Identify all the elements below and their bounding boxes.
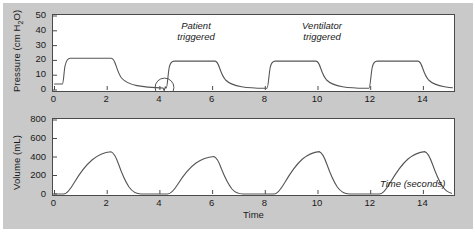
pressure-plot-svg [53,15,454,91]
pressure-ytick-40: 40 [22,24,46,35]
volume-ytick-600: 600 [16,132,46,143]
pressure-ytick-30: 30 [22,39,46,50]
volume-ytick-0: 0 [16,188,46,199]
volume-axis-title: Volume (mL) [11,135,22,190]
volume-xtick-14: 14 [412,197,432,208]
pressure-xtick-8: 8 [254,93,274,104]
pressure-ytick-0: 0 [22,83,46,94]
volume-xtick-12: 12 [360,197,380,208]
pressure-ytick-10: 10 [22,68,46,79]
volume-xtick-6: 6 [202,197,222,208]
annotation-ventilator-triggered: Ventilator triggered [283,20,361,42]
pressure-axis-title-pre: Pressure (cm H [11,25,22,92]
pressure-ytick-50: 50 [22,9,46,20]
volume-ytick-800: 800 [16,113,46,124]
volume-ytick-400: 400 [16,151,46,162]
pressure-axis-title-post: O) [11,10,22,21]
annotation-patient-triggered: Patient triggered [160,20,232,42]
volume-xtick-4: 4 [149,197,169,208]
pressure-y-ticks [53,16,57,90]
volume-xtick-0: 0 [44,197,64,208]
volume-y-ticks [53,120,57,194]
pressure-xtick-14: 14 [412,93,432,104]
pressure-trace [55,58,453,90]
figure-container: Pressure (cm H2O) 50 40 30 20 10 0 0 2 4… [0,0,476,232]
volume-xtick-2: 2 [96,197,116,208]
pressure-xtick-0: 0 [44,93,64,104]
pressure-xtick-4: 4 [149,93,169,104]
pressure-xtick-6: 6 [202,93,222,104]
volume-ytick-200: 200 [16,169,46,180]
annotation-time-seconds: Time (seconds) [380,178,445,189]
pressure-axis-title: Pressure (cm H2O) [11,10,24,92]
volume-xtick-8: 8 [254,197,274,208]
volume-xaxis-label: Time [52,209,455,220]
pressure-ytick-20: 20 [22,53,46,64]
pressure-xtick-2: 2 [96,93,116,104]
pressure-plot-panel [52,14,455,92]
pressure-xtick-12: 12 [360,93,380,104]
volume-xtick-10: 10 [307,197,327,208]
pressure-xtick-10: 10 [307,93,327,104]
